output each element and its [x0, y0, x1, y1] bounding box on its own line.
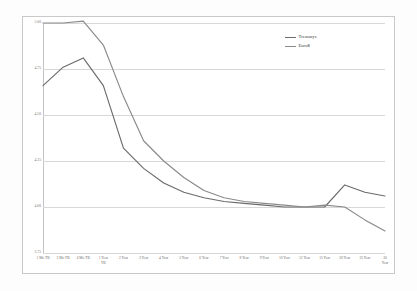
legend-label-euro-dollar: Euro$	[299, 44, 310, 49]
plot-area	[43, 23, 385, 253]
x-axis-tick-label: 15 Year	[319, 256, 330, 261]
x-axis-tick-label: 20 Year	[339, 256, 350, 261]
x-axis-tick-label: 6 Mo TB	[77, 256, 90, 261]
legend-item-euro-dollar: Euro$	[285, 42, 355, 51]
x-axis-tick-label: 2 Year	[119, 256, 128, 261]
x-axis-tick-label: 6 Year	[199, 256, 208, 261]
x-axis-tick-label: 3 Year	[139, 256, 148, 261]
x-axis-tick-label: 4 Year	[159, 256, 168, 261]
legend-item-treasurys: Treasurys	[285, 33, 355, 42]
x-axis-tick-label: 3 Mo TB	[57, 256, 70, 261]
x-axis-tick-label: 1 Year TB	[99, 256, 108, 266]
legend-swatch-treasurys	[285, 37, 296, 39]
series-lines	[43, 23, 385, 253]
x-axis-tick-label: 25 Year	[359, 256, 370, 261]
x-axis-tick-label: 7 Year	[219, 256, 228, 261]
x-axis-tick-label: 10 Year	[279, 256, 290, 261]
x-axis-tick-label: 5 Year	[179, 256, 188, 261]
yield-curve-chart: 5.004.754.504.254.003.75 1 Mo TB3 Mo TB6…	[0, 0, 417, 291]
legend-swatch-euro-dollar	[285, 46, 296, 48]
x-axis-tick-label: 1 Mo TB	[36, 256, 49, 261]
x-axis-labels: 1 Mo TB3 Mo TB6 Mo TB1 Year TB2 Year3 Ye…	[43, 256, 385, 286]
x-axis-tick-label: 30 Year	[382, 256, 389, 266]
chart-legend: Treasurys Euro$	[285, 33, 355, 51]
x-axis-tick-label: 12 Year	[299, 256, 310, 261]
x-axis-tick-label: 8 Year	[240, 256, 249, 261]
legend-label-treasurys: Treasurys	[299, 35, 317, 40]
series-line-treasurys	[43, 58, 385, 207]
gridline	[43, 253, 385, 254]
x-axis-tick-label: 9 Year	[260, 256, 269, 261]
